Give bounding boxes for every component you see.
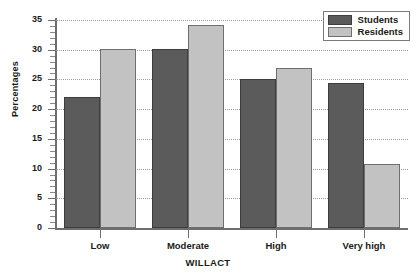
x-tick [364,229,365,238]
bar-moderate-residents [188,25,224,228]
y-tick-minor [50,26,55,27]
y-tick-minor [50,175,55,176]
legend-swatch-residents [328,27,352,37]
y-tick-major [48,169,55,170]
y-tick-label: 5 [20,193,42,202]
bar-very-high-residents [364,164,400,228]
bar-high-residents [276,68,312,228]
y-tick-major [48,139,55,140]
y-tick-major [48,198,55,199]
y-tick-minor [50,145,55,146]
x-axis-line [55,228,408,230]
y-tick-minor [50,32,55,33]
x-tick-label-high: High [265,240,286,251]
y-tick-minor [50,38,55,39]
y-tick-label: 35 [20,15,42,24]
legend-label-residents: Residents [358,27,403,37]
bar-high-students [240,79,276,228]
y-tick-minor [50,192,55,193]
y-tick-minor [50,210,55,211]
y-tick-minor [50,103,55,104]
y-tick-label: 20 [20,104,42,113]
y-tick-minor [50,204,55,205]
x-tick [100,229,101,238]
bar-low-students [64,97,100,228]
y-tick-minor [50,44,55,45]
y-tick-major [48,228,55,229]
bar-moderate-students [152,49,188,228]
y-tick-major [48,109,55,110]
y-tick-minor [50,180,55,181]
y-tick-minor [50,151,55,152]
legend-item-residents: Residents [328,27,403,37]
y-tick-label: 15 [20,134,42,143]
y-tick-minor [50,56,55,57]
y-tick-minor [50,121,55,122]
y-tick-minor [50,62,55,63]
y-tick-minor [50,186,55,187]
plot-area [56,20,408,228]
x-tick-label-moderate: Moderate [167,240,209,251]
y-tick-minor [50,85,55,86]
y-tick-minor [50,91,55,92]
legend-swatch-students [328,15,352,25]
y-tick-minor [50,115,55,116]
y-tick-minor [50,97,55,98]
y-tick-major [48,20,55,21]
x-tick-label-low: Low [91,240,110,251]
y-tick-minor [50,216,55,217]
y-tick-minor [50,157,55,158]
y-tick-label: 10 [20,164,42,173]
bar-chart: Percentages 05101520253035 LowModerateHi… [0,0,416,278]
y-tick-minor [50,127,55,128]
x-tick-label-very-high: Very high [343,240,386,251]
y-tick-label: 0 [20,223,42,232]
legend-item-students: Students [328,15,403,25]
y-tick-label: 25 [20,74,42,83]
y-tick-minor [50,73,55,74]
bar-very-high-students [328,83,364,228]
x-tick [188,229,189,238]
y-tick-minor [50,133,55,134]
x-axis-title: WILLACT [0,257,416,268]
y-tick-major [48,50,55,51]
y-tick-minor [50,163,55,164]
y-axis-title: Percentages [10,44,20,134]
bar-low-residents [100,49,136,228]
y-tick-minor [50,68,55,69]
legend-label-students: Students [358,15,399,25]
y-tick-major [48,79,55,80]
chart-legend: Students Residents [323,11,410,41]
y-tick-label: 30 [20,45,42,54]
y-tick-minor [50,222,55,223]
x-tick [276,229,277,238]
